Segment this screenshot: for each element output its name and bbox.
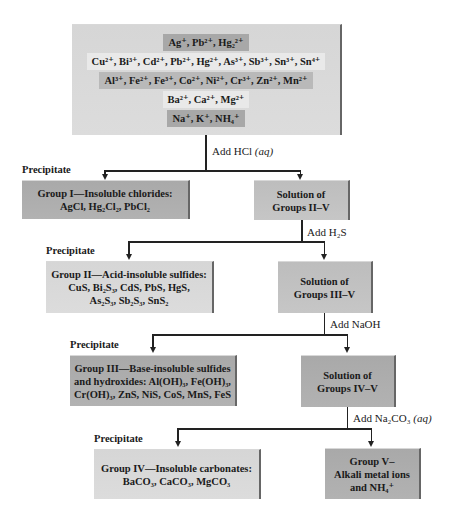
connector-line — [324, 241, 326, 255]
connector-line — [177, 428, 372, 430]
group-1-precipitate-box: Group I—Insoluble chlorides: AgCl, Hg₂Cl… — [22, 180, 190, 219]
arrow-down-icon — [150, 347, 156, 353]
precipitate-label: Precipitate — [22, 164, 71, 175]
solution-groups-3-5-box: Solution of Groups III–V — [278, 261, 373, 313]
group-5-line: Group V– — [350, 455, 395, 468]
connector-line — [205, 135, 207, 171]
ion-row-group-1: Ag⁺, Pb²⁺, Hg₂²⁺ — [163, 34, 248, 51]
ion-row-group-3: Al³⁺, Fe²⁺, Fe³⁺, Co²⁺, Ni²⁺, Cr³⁺, Zn²⁺… — [99, 72, 312, 89]
ion-row-group-5: Na⁺, K⁺, NH₄⁺ — [167, 110, 244, 127]
group-1-compounds: AgCl, Hg₂Cl₂, PbCl₂ — [60, 200, 150, 213]
ion-row-group-4: Ba²⁺, Ca²⁺, Mg²⁺ — [163, 91, 250, 108]
connector-line — [128, 241, 325, 243]
group-5-line: and NH₄⁺ — [350, 481, 394, 494]
group-2-compounds: As₂S₃, Sb₂S₃, SnS₂ — [90, 294, 169, 307]
arrow-down-icon — [321, 254, 327, 260]
reagent-label-h2s: Add H₂S — [307, 226, 347, 238]
group-1-title: Group I—Insoluble chlorides: — [37, 187, 172, 200]
solution-line: Groups II–V — [272, 201, 329, 214]
arrow-down-icon — [175, 441, 181, 447]
solution-line: Groups III–V — [294, 288, 355, 301]
precipitate-label: Precipitate — [70, 339, 119, 350]
group-2-compounds: CuS, Bi₂S₃, CdS, PbS, HgS, — [68, 281, 190, 294]
reagent-label-na2co3: Add Na₂CO₃ (aq) — [353, 412, 432, 424]
group-5-line: Alkali metal ions — [334, 468, 410, 481]
solution-line: Solution of — [277, 188, 326, 201]
reagent-label-hcl: Add HCl (aq) — [212, 145, 273, 157]
solution-groups-4-5-box: Solution of Groups IV–V — [301, 355, 396, 407]
connector-line — [152, 334, 154, 348]
group-3-compounds: and hydroxides: Al(OH)₃, Fe(OH)₃, — [74, 375, 231, 388]
group-3-precipitate-box: Group III—Base-insoluble sulfides and hy… — [70, 355, 237, 406]
reagent-label-naoh: Add NaOH — [330, 318, 380, 330]
group-3-compounds: Cr(OH)₃, ZnS, NiS, CoS, MnS, FeS — [74, 388, 231, 401]
group-2-title: Group II—Acid-insoluble sulfides: — [51, 268, 207, 281]
precipitate-label: Precipitate — [46, 245, 95, 256]
connector-line — [152, 334, 348, 336]
connector-line — [347, 407, 349, 429]
solution-line: Solution of — [300, 275, 349, 288]
group-3-title: Group III—Base-insoluble sulfides — [74, 362, 230, 375]
group-2-precipitate-box: Group II—Acid-insoluble sulfides: CuS, B… — [46, 261, 214, 313]
arrow-down-icon — [368, 441, 374, 447]
arrow-down-icon — [126, 254, 132, 260]
connector-line — [104, 170, 301, 172]
group-4-compounds: BaCO₃, CaCO₃, MgCO₃ — [123, 475, 230, 488]
arrow-down-icon — [344, 347, 350, 353]
solution-line: Solution of — [323, 369, 372, 382]
precipitate-label: Precipitate — [94, 433, 143, 444]
group-4-title: Group IV—Insoluble carbonates: — [101, 462, 252, 475]
connector-line — [128, 241, 130, 255]
connector-line — [301, 220, 303, 242]
solution-groups-2-5-box: Solution of Groups II–V — [254, 180, 350, 220]
group-5-solution-box: Group V– Alkali metal ions and NH₄⁺ — [325, 448, 421, 499]
ion-row-group-2: Cu²⁺, Bi³⁺, Cd²⁺, Pb²⁺, Hg²⁺, As³⁺, Sb³⁺… — [87, 53, 326, 70]
initial-mixture-box: Ag⁺, Pb²⁺, Hg₂²⁺ Cu²⁺, Bi³⁺, Cd²⁺, Pb²⁺,… — [72, 24, 342, 135]
connector-line — [324, 313, 326, 335]
solution-line: Groups IV–V — [317, 382, 378, 395]
connector-line — [177, 428, 179, 442]
group-4-precipitate-box: Group IV—Insoluble carbonates: BaCO₃, Ca… — [94, 449, 261, 499]
connector-line — [347, 334, 349, 348]
connector-line — [371, 428, 373, 442]
